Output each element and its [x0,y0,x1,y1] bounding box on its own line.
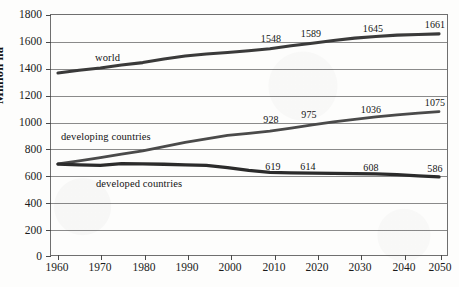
x-tick-2020 [318,255,319,260]
y-tick-label: 200 [2,225,42,237]
x-tick-label-2010: 2010 [252,262,296,274]
x-tick-label-2030: 2030 [338,262,382,274]
x-tick-label-1990: 1990 [165,262,209,274]
x-tick-label-2050: 2050 [418,262,459,274]
series-label-developed: developed countries [96,178,182,189]
point-label-developed-2020: 614 [294,161,322,172]
point-label-developed-2035: 608 [357,162,385,173]
y-tick-label: 1400 [2,63,42,75]
point-label-developing-2010: 928 [257,114,285,125]
x-tick-1960 [58,255,59,260]
x-tick-1980 [145,255,146,260]
x-tick-label-2000: 2000 [208,262,252,274]
y-tick-label: 800 [2,144,42,156]
point-label-developing-2035: 1036 [354,104,388,115]
y-tick-label: 1000 [2,117,42,129]
point-label-world-2035: 1645 [356,23,390,34]
point-label-developing-2020: 975 [295,109,323,120]
y-tick-label: 600 [2,171,42,183]
x-tick-2010 [275,255,276,260]
point-label-developed-2010: 619 [259,161,287,172]
y-tick-label: 0 [2,251,42,263]
x-tick-label-1960: 1960 [35,262,79,274]
x-tick-2000 [231,255,232,260]
point-label-developing-2050: 1075 [418,97,452,108]
x-tick-label-1970: 1970 [78,262,122,274]
x-tick-2050 [441,255,442,260]
plot-area: world developing countries developed cou… [50,14,448,256]
series-label-developing: developing countries [61,131,151,142]
y-axis-title: Million ha [0,47,7,104]
series-label-world: world [95,52,120,63]
point-label-world-2020: 1589 [294,28,328,39]
point-label-developed-2050: 586 [421,163,449,174]
x-tick-label-2020: 2020 [295,262,339,274]
x-tick-2040 [405,255,406,260]
point-label-world-2050: 1661 [418,19,452,30]
x-tick-2030 [361,255,362,260]
x-tick-1990 [188,255,189,260]
y-tick-label: 400 [2,198,42,210]
x-tick-1970 [101,255,102,260]
x-tick-label-1980: 1980 [122,262,166,274]
y-tick-label: 1800 [2,9,42,21]
chart-container: 1800 1600 1400 1200 1000 800 600 400 200… [0,0,459,287]
y-tick-label: 1600 [2,36,42,48]
point-label-world-2010: 1548 [254,33,288,44]
y-tick-0 [46,256,51,257]
y-tick-label: 1200 [2,90,42,102]
